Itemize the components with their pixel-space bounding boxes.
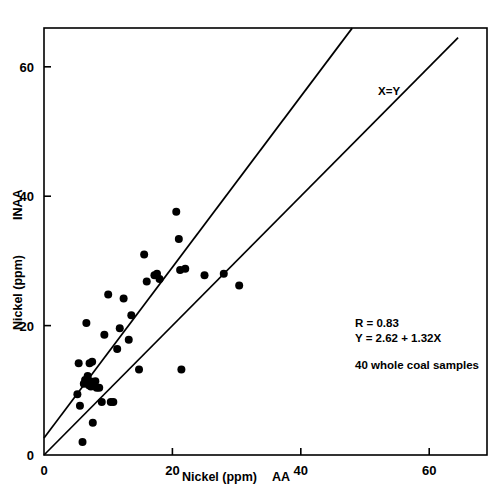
data-point bbox=[235, 281, 243, 289]
data-point bbox=[109, 398, 117, 406]
data-point bbox=[98, 398, 106, 406]
x-axis-method-label: AA bbox=[272, 470, 290, 484]
data-point bbox=[143, 278, 151, 286]
regression-equation-annotation: Y = 2.62 + 1.32X bbox=[355, 332, 441, 344]
data-point bbox=[172, 208, 180, 216]
sample-count-annotation: 40 whole coal samples bbox=[355, 359, 479, 371]
data-point bbox=[140, 250, 148, 258]
y-axis-method-label: INAA bbox=[11, 189, 25, 220]
scatter-plot-figure: 0204060 0204060 X=Y R = 0.83 Y = 2.62 + … bbox=[0, 0, 501, 495]
data-point bbox=[89, 419, 97, 427]
data-point bbox=[79, 438, 87, 446]
data-point bbox=[95, 384, 103, 392]
data-point bbox=[75, 359, 83, 367]
data-point bbox=[135, 366, 143, 374]
plot-frame bbox=[44, 28, 487, 455]
y-tick-label-60: 60 bbox=[20, 60, 34, 75]
x-tick-label-20: 20 bbox=[165, 463, 179, 478]
plot-canvas: 0204060 0204060 X=Y R = 0.83 Y = 2.62 + … bbox=[0, 0, 501, 495]
x-axis-title: Nickel (ppm) bbox=[182, 470, 257, 484]
data-point bbox=[201, 271, 209, 279]
data-point bbox=[76, 402, 84, 410]
data-point bbox=[120, 294, 128, 302]
data-point bbox=[82, 319, 90, 327]
y-tick-label-0: 0 bbox=[27, 448, 34, 463]
data-point bbox=[156, 275, 164, 283]
data-point bbox=[220, 270, 228, 278]
y-axis-title: Nickel (ppm) bbox=[11, 255, 25, 330]
identity-line-label: X=Y bbox=[378, 85, 400, 97]
data-point bbox=[104, 291, 112, 299]
data-point bbox=[73, 390, 81, 398]
data-point bbox=[177, 366, 185, 374]
correlation-annotation: R = 0.83 bbox=[355, 317, 399, 329]
data-point bbox=[127, 311, 135, 319]
data-point bbox=[88, 358, 96, 366]
data-point bbox=[175, 235, 183, 243]
data-point bbox=[113, 345, 121, 353]
data-point bbox=[125, 336, 133, 344]
x-tick-label-60: 60 bbox=[422, 463, 436, 478]
x-tick-label-0: 0 bbox=[40, 463, 47, 478]
data-point bbox=[116, 324, 124, 332]
x-tick-label-40: 40 bbox=[294, 463, 308, 478]
data-point bbox=[100, 331, 108, 339]
data-point bbox=[181, 265, 189, 273]
